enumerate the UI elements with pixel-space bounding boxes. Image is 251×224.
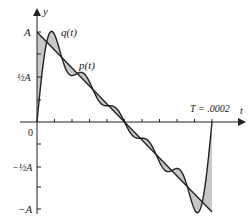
y-tick-label-neg-A: −A	[18, 203, 32, 215]
y-tick-label-half-A: ½A	[17, 72, 32, 83]
p-curve-label: p(t)	[78, 59, 95, 72]
period-label: T = .0002	[190, 103, 230, 114]
t-axis-label: t	[240, 105, 243, 116]
fourier-approximation-diagram: y t A ½A 0 −½A −A q(t) p(t) T = .0002	[0, 0, 251, 224]
y-tick-label-neg-half-A: −½A	[12, 162, 33, 173]
y-axis-label: y	[42, 5, 48, 17]
q-curve-label: q(t)	[61, 26, 77, 39]
y-tick-label-A: A	[23, 26, 31, 38]
y-tick-label-zero: 0	[28, 127, 33, 138]
